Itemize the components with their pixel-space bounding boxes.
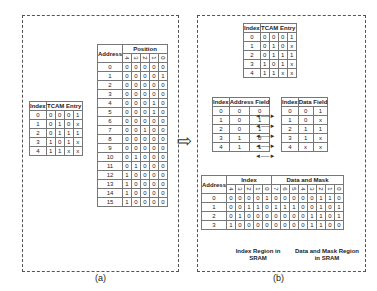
table-row: 700100 xyxy=(98,126,168,135)
caption-a: (a) xyxy=(95,273,106,283)
table-row: 800000 xyxy=(98,135,168,144)
mapping-arrow-icon: ◄──► xyxy=(255,153,275,159)
table-row: 200000 xyxy=(98,81,168,90)
table-row: 211 xyxy=(282,125,328,134)
mapping-arrow-icon: ◄──► xyxy=(255,143,275,149)
caption-b: (b) xyxy=(273,273,284,283)
table-row: 20100000001101 xyxy=(202,212,344,221)
table-row: 10011011100101 xyxy=(202,203,344,212)
table-row: 100001 xyxy=(98,72,168,81)
table-row: 1010x xyxy=(244,42,297,51)
table-row: 20111 xyxy=(30,129,83,138)
table-row: 4xx xyxy=(282,143,328,152)
table-row: 300000 xyxy=(98,90,168,99)
table-row: 1510000 xyxy=(98,198,168,207)
mapping-arrow-icon: ◄──► xyxy=(255,123,275,129)
table-row: 00001 xyxy=(244,33,297,42)
table-row: 900000 xyxy=(98,144,168,153)
mapping-arrow-icon: ◄──► xyxy=(255,133,275,139)
table-row: 600000 xyxy=(98,117,168,126)
table-row: 3101x xyxy=(30,138,83,147)
sram-table: AddressIndexData and Mask432107654321000… xyxy=(201,175,344,230)
table-row: 31000000001100 xyxy=(202,221,344,230)
table-row: 00001 xyxy=(30,111,83,120)
table-row: 001 xyxy=(282,107,328,116)
table-row: 000000 xyxy=(98,63,168,72)
address-position-table: AddressPosition4321000000010000120000030… xyxy=(97,44,168,207)
index-region-label: Index Region in SRAM xyxy=(228,248,288,262)
table-row: 1310000 xyxy=(98,180,168,189)
table-row: 1210000 xyxy=(98,171,168,180)
transform-arrow-icon: ⇨ xyxy=(177,130,192,152)
table-row: 500010 xyxy=(98,108,168,117)
table-row: 3101x xyxy=(244,60,297,69)
table-row: 1010x xyxy=(30,120,83,129)
table-row: 31x xyxy=(282,134,328,143)
table-row: 20111 xyxy=(244,51,297,60)
table-row: 1410000 xyxy=(98,189,168,198)
data-field-table: IndexData Field00110x21131x4xx xyxy=(281,97,328,152)
table-row: 1001000 xyxy=(98,153,168,162)
tcam-table-b: IndexTCAM Entry000011010x201113101x411xx xyxy=(243,23,297,78)
table-row: 411xx xyxy=(30,147,83,156)
tcam-table-a: IndexTCAM Entry000011010x201113101x411xx xyxy=(29,101,83,156)
table-row: 400010 xyxy=(98,99,168,108)
data-mask-region-label: Data and Mask Region in SRAM xyxy=(292,248,362,262)
table-row: 00000100000110 xyxy=(202,194,344,203)
table-row: 411xx xyxy=(244,69,297,78)
table-row: 1101000 xyxy=(98,162,168,171)
table-row: 10x xyxy=(282,116,328,125)
mapping-arrow-icon: ◄──► xyxy=(255,113,275,119)
